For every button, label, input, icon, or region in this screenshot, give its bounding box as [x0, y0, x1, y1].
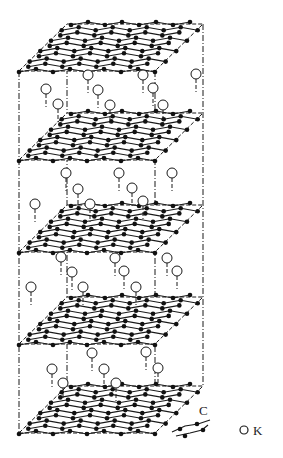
- potassium-atom: [110, 253, 120, 276]
- potassium-atom: [93, 85, 103, 108]
- potassium-atom: [56, 252, 66, 275]
- potassium-atom: [61, 168, 71, 191]
- potassium-atom: [26, 282, 36, 305]
- potassium-atom: [119, 266, 129, 289]
- legend-potassium-label: K: [253, 423, 262, 439]
- carbon-layers: [17, 20, 203, 437]
- potassium-atom: [141, 347, 151, 370]
- carbon-layer: [17, 20, 203, 75]
- legend-carbon-label: C: [199, 403, 208, 419]
- potassium-atom: [167, 168, 177, 191]
- potassium-atom: [162, 253, 172, 276]
- potassium-atom: [148, 83, 158, 106]
- carbon-layer: [17, 382, 203, 437]
- carbon-layer: [17, 201, 203, 256]
- legend-potassium-icon: [240, 426, 248, 434]
- potassium-atom: [99, 364, 109, 387]
- potassium-atom: [127, 183, 137, 206]
- legend-carbon-icon: [172, 420, 210, 438]
- potassium-atom: [191, 69, 201, 92]
- potassium-atom: [114, 168, 124, 191]
- potassium-atom: [87, 348, 97, 371]
- potassium-atom: [172, 266, 182, 289]
- graphite-intercalation-diagram: [0, 0, 283, 458]
- carbon-layer: [17, 293, 203, 348]
- potassium-atom: [67, 267, 77, 290]
- potassium-atom: [41, 84, 51, 107]
- potassium-atom: [73, 184, 83, 207]
- potassium-atom: [83, 70, 93, 93]
- potassium-atom: [47, 364, 57, 387]
- potassium-atom: [30, 199, 40, 222]
- potassium-atom: [138, 70, 148, 93]
